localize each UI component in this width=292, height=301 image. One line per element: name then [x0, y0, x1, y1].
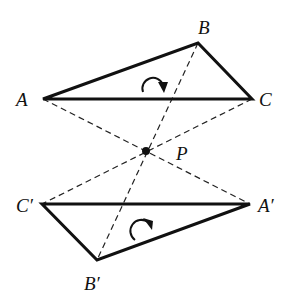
label-p: P [175, 143, 188, 164]
label-a: A [14, 89, 28, 110]
label-c: C [259, 89, 272, 110]
label-b-prime: B′ [84, 273, 101, 294]
triangle-a-prime-b-prime-c-prime [42, 204, 250, 260]
center-point-p [142, 147, 150, 155]
reflection-diagram: A B C P C′ A′ B′ [0, 0, 292, 301]
triangle-abc [43, 43, 252, 99]
label-c-prime: C′ [16, 195, 34, 216]
clockwise-arrow-icon [130, 218, 153, 240]
label-a-prime: A′ [256, 195, 275, 216]
clockwise-arrow-icon [142, 78, 168, 93]
label-b: B [198, 17, 210, 38]
